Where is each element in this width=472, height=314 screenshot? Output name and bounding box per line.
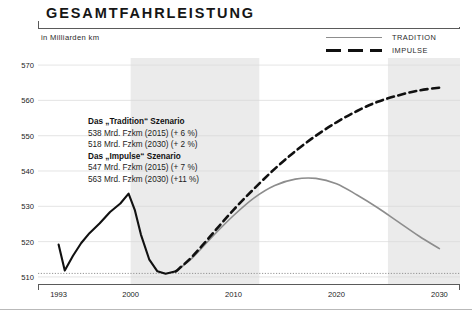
annotation-impulse-line-1: 547 Mrd. Fzkm (2015) (+ 7 %): [88, 162, 268, 174]
annotation-tradition-heading: Das „Tradition“ Szenario: [88, 116, 268, 128]
x-tick-label-2000: 2000: [122, 290, 139, 299]
chart-header: GESAMTFAHRLEISTUNG: [0, 0, 472, 30]
y-tick-label-550: 550: [12, 131, 34, 140]
scenario-annotation: Das „Tradition“ Szenario 538 Mrd. Fzkm (…: [88, 116, 268, 186]
legend-swatch-dashed-icon: [322, 46, 384, 56]
title-bracket-rule: [38, 21, 460, 29]
y-tick-label-510: 510: [12, 272, 34, 281]
x-tick-label-2020: 2020: [328, 290, 345, 299]
x-tick-label-1993: 1993: [50, 290, 67, 299]
legend-item-tradition: TRADITION: [322, 31, 464, 44]
annotation-impulse-line-2: 563 Mrd. Fzkm (2030) (+11 %): [88, 174, 268, 186]
legend-label-tradition: TRADITION: [392, 33, 436, 42]
page-title: GESAMTFAHRLEISTUNG: [46, 5, 255, 21]
y-tick-label-540: 540: [12, 167, 34, 176]
title-bracket-fill: [40, 20, 460, 27]
figure-bottom-rule: [0, 309, 472, 310]
x-axis-tick-labels: 19932000201020202030: [38, 290, 460, 304]
y-tick-label-570: 570: [12, 61, 34, 70]
legend-label-impulse: IMPULSE: [392, 46, 428, 55]
annotation-tradition-line-1: 538 Mrd. Fzkm (2015) (+ 6 %): [88, 128, 268, 140]
chart-subtitle: in Milliarden km: [41, 33, 99, 42]
y-tick-label-560: 560: [12, 96, 34, 105]
legend-item-impulse: IMPULSE: [322, 44, 464, 57]
annotation-tradition-line-2: 518 Mrd. Fzkm (2030) (+ 2 %): [88, 139, 268, 151]
legend-swatch-solid-icon: [322, 33, 384, 43]
annotation-impulse-heading: Das „Impulse“ Szenario: [88, 151, 268, 163]
y-tick-label-520: 520: [12, 237, 34, 246]
y-axis-tick-labels: 570560550540530520510: [8, 58, 34, 284]
chart-legend: TRADITION IMPULSE: [322, 31, 464, 57]
y-tick-label-530: 530: [12, 202, 34, 211]
x-tick-label-2030: 2030: [431, 290, 448, 299]
x-tick-label-2010: 2010: [225, 290, 242, 299]
